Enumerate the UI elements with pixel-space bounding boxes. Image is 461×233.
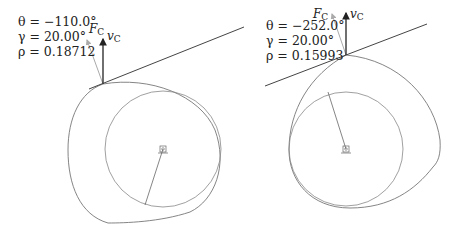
right-cam-profile xyxy=(289,55,440,208)
left-cam-profile xyxy=(68,82,220,223)
right-params: θ = −252.0° γ = 20.00° ρ = 0.15993 xyxy=(266,18,344,63)
right-force-label: FC xyxy=(313,7,328,22)
left-radius-line xyxy=(145,149,163,205)
right-velocity-label: vC xyxy=(350,7,364,22)
right-pivot-icon xyxy=(341,146,351,153)
right-gamma: γ = 20.00° xyxy=(266,33,344,48)
left-gamma: γ = 20.00° xyxy=(18,29,96,44)
left-params: θ = −110.0° γ = 20.00° ρ = 0.18712 xyxy=(18,14,96,59)
right-rho: ρ = 0.15993 xyxy=(266,48,344,63)
left-velocity-label: vC xyxy=(107,29,121,44)
left-force-label: FC xyxy=(89,22,104,37)
left-rho: ρ = 0.18712 xyxy=(18,44,96,59)
left-theta: θ = −110.0° xyxy=(18,14,96,29)
right-theta: θ = −252.0° xyxy=(266,18,344,33)
right-radius-line xyxy=(328,92,346,149)
